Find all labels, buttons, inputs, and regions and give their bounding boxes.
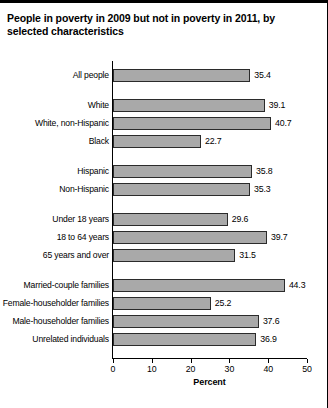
bar-value-label: 35.3 — [254, 183, 271, 196]
category-label: Unrelated individuals — [0, 333, 109, 346]
bar — [113, 315, 259, 328]
bar-row: Hispanic35.8 — [0, 165, 328, 178]
category-label: Under 18 years — [0, 213, 109, 226]
bar-value-label: 31.5 — [239, 249, 256, 262]
x-tick — [191, 359, 192, 363]
bar-row: All people35.4 — [0, 69, 328, 82]
bar — [113, 333, 256, 346]
category-label: Hispanic — [0, 165, 109, 178]
bar-row: Female-householder families25.2 — [0, 297, 328, 310]
bar-row: Married-couple families44.3 — [0, 279, 328, 292]
bar-value-label: 22.7 — [205, 135, 222, 148]
category-label: Female-householder families — [0, 297, 109, 310]
bar-row: White, non-Hispanic40.7 — [0, 117, 328, 130]
bar — [113, 69, 250, 82]
bar — [113, 135, 201, 148]
bar — [113, 165, 252, 178]
x-axis-label: Percent — [112, 377, 307, 387]
x-tick — [307, 359, 308, 363]
bar-value-label: 36.9 — [260, 333, 277, 346]
bar-row: 18 to 64 years39.7 — [0, 231, 328, 244]
chart-figure: People in poverty in 2009 but not in pov… — [0, 0, 328, 408]
x-tick — [229, 359, 230, 363]
category-label: Male-householder families — [0, 315, 109, 328]
bar — [113, 249, 235, 262]
category-label: Black — [0, 135, 109, 148]
bar — [113, 117, 271, 130]
plot-area: All people35.4White39.1White, non-Hispan… — [0, 61, 328, 381]
x-tick-label: 40 — [253, 364, 283, 374]
x-axis-line — [112, 358, 307, 359]
bar-value-label: 35.8 — [256, 165, 273, 178]
bar-row: Black22.7 — [0, 135, 328, 148]
bar — [113, 279, 285, 292]
bar-value-label: 29.6 — [232, 213, 249, 226]
bar-row: Male-householder families37.6 — [0, 315, 328, 328]
bar-row: Unrelated individuals36.9 — [0, 333, 328, 346]
bar — [113, 297, 211, 310]
category-label: 18 to 64 years — [0, 231, 109, 244]
bar — [113, 99, 265, 112]
chart-title: People in poverty in 2009 but not in pov… — [7, 12, 317, 38]
bar-row: White39.1 — [0, 99, 328, 112]
bar-row: Non-Hispanic35.3 — [0, 183, 328, 196]
bar — [113, 213, 228, 226]
bar-value-label: 37.6 — [263, 315, 280, 328]
x-tick-label: 10 — [137, 364, 167, 374]
category-label: White, non-Hispanic — [0, 117, 109, 130]
bar-row: 65 years and over31.5 — [0, 249, 328, 262]
x-tick-label: 50 — [292, 364, 322, 374]
x-tick — [113, 359, 114, 363]
category-label: White — [0, 99, 109, 112]
category-label: Non-Hispanic — [0, 183, 109, 196]
bar-value-label: 44.3 — [289, 279, 306, 292]
category-label: Married-couple families — [0, 279, 109, 292]
x-tick-label: 20 — [176, 364, 206, 374]
category-label: All people — [0, 69, 109, 82]
bar-row: Under 18 years29.6 — [0, 213, 328, 226]
x-tick-label: 30 — [214, 364, 244, 374]
x-tick-label: 0 — [98, 364, 128, 374]
category-label: 65 years and over — [0, 249, 109, 262]
bar-value-label: 39.1 — [269, 99, 286, 112]
x-tick — [268, 359, 269, 363]
bar-value-label: 39.7 — [271, 231, 288, 244]
bar — [113, 183, 250, 196]
bar — [113, 231, 267, 244]
bar-value-label: 35.4 — [254, 69, 271, 82]
bar-value-label: 40.7 — [275, 117, 292, 130]
x-tick — [152, 359, 153, 363]
bar-value-label: 25.2 — [215, 297, 232, 310]
